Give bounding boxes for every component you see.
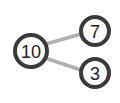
- part-2-label: 3: [90, 64, 100, 84]
- connector-whole-to-part-2: [45, 58, 81, 70]
- whole-node: 10: [15, 35, 47, 67]
- part-1-label: 7: [90, 22, 100, 42]
- whole-label: 10: [21, 42, 41, 62]
- part-node-2: 3: [81, 59, 109, 87]
- part-node-1: 7: [81, 17, 109, 45]
- connector-whole-to-part-1: [46, 34, 81, 44]
- number-bond-diagram: 10 7 3: [0, 0, 120, 103]
